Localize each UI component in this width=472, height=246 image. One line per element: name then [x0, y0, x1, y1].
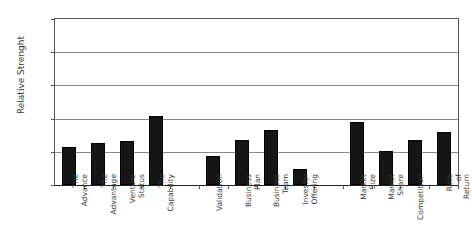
x-tick-label: Venture Status: [129, 174, 146, 244]
x-tick-label: The Advance: [72, 174, 89, 244]
x-tick-mark: [228, 185, 229, 189]
x-tick-label: Market Share: [388, 174, 405, 244]
y-tick-mark: [51, 19, 55, 20]
x-tick-label: The Advantage: [101, 174, 118, 244]
x-tick-label: Business Team: [273, 174, 290, 244]
y-tick-mark: [51, 152, 55, 153]
plot-area: [54, 18, 459, 186]
y-tick-mark: [51, 52, 55, 53]
gridline: [55, 85, 458, 86]
gridline: [55, 52, 458, 53]
gridline: [55, 152, 458, 153]
y-axis-title: Relative Strenght: [16, 15, 26, 135]
x-tick-label: Competition: [417, 174, 426, 244]
y-tick-mark: [51, 185, 55, 186]
x-tick-label: Business Plan: [245, 174, 262, 244]
x-tick-label: Validation: [216, 174, 225, 244]
y-tick-mark: [51, 85, 55, 86]
gridline: [55, 119, 458, 120]
x-tick-mark: [429, 185, 430, 189]
x-tick-label: The Capability: [158, 174, 175, 244]
x-tick-label: Rate of Return: [446, 174, 472, 244]
x-tick-label: Market Size: [360, 174, 377, 244]
y-tick-mark: [51, 119, 55, 120]
x-tick-label: Investor Offering: [302, 174, 319, 244]
x-axis-labels: The AdvanceThe AdvantageVenture StatusTh…: [54, 190, 457, 246]
x-tick-mark: [343, 185, 344, 189]
x-tick-mark: [199, 185, 200, 189]
